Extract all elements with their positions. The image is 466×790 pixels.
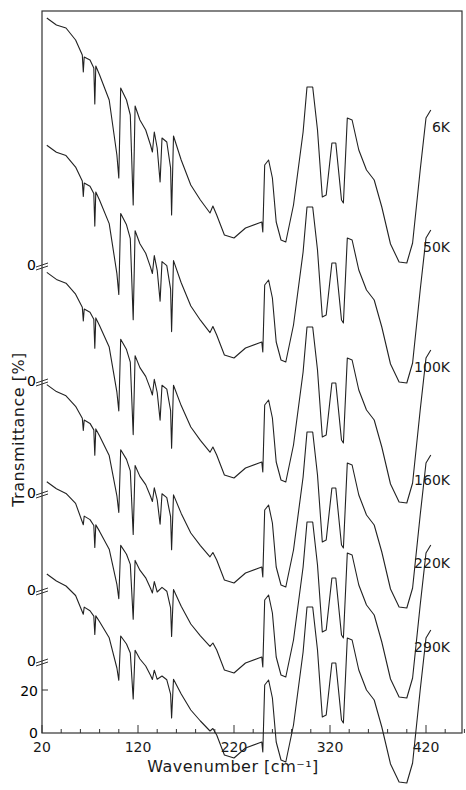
svg-text:20: 20 [20,683,38,699]
temperature-label: 50K [423,239,451,255]
temperature-label: 220K [414,555,451,571]
svg-text:0: 0 [29,725,38,741]
temperature-label: 100K [414,359,451,375]
svg-text:0: 0 [27,373,36,389]
spectrum-curve-6K [47,18,431,263]
svg-text:0: 0 [27,653,36,669]
y-offset-zero-marks: 00000 [27,257,48,669]
temperature-label: 290K [414,639,451,655]
temperature-labels: 6K50K100K160K220K290K [414,119,451,655]
svg-text:120: 120 [125,739,152,755]
svg-text:220: 220 [221,739,248,755]
svg-text:0: 0 [27,485,36,501]
svg-text:420: 420 [413,739,440,755]
svg-text:20: 20 [33,739,51,755]
spectra-chart: 20120220320420 00000 200 6K50K100K160K22… [0,0,466,790]
x-axis-ticks [42,725,464,733]
x-axis-tick-labels: 20120220320420 [33,739,439,755]
y-axis-bottom-ticks: 200 [20,683,48,741]
spectrum-curve-220K [47,482,431,698]
x-axis-label: Wavenumber [cm⁻¹] [0,757,466,776]
spectra-curves [47,18,431,783]
svg-text:0: 0 [27,257,36,273]
svg-text:320: 320 [317,739,344,755]
spectrum-curve-100K [47,272,431,503]
svg-text:0: 0 [27,582,36,598]
spectrum-curve-50K [47,145,431,383]
y-axis-label: Transmittance [%] [9,350,28,510]
temperature-label: 160K [414,472,451,488]
temperature-label: 6K [432,119,451,135]
plot-frame [42,11,462,733]
